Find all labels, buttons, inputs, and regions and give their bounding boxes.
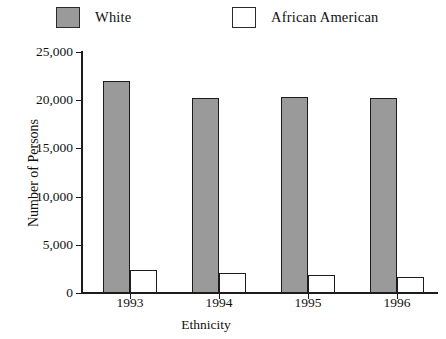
y-tick-mark bbox=[76, 197, 82, 198]
bar-1995-african-american bbox=[308, 275, 335, 293]
bar-chart: White African American Number of Persons… bbox=[0, 0, 446, 339]
bar-1996-african-american bbox=[397, 277, 424, 293]
y-tick-mark bbox=[76, 100, 82, 101]
x-tick-mark bbox=[397, 293, 398, 299]
legend-swatch-white-icon bbox=[56, 7, 80, 28]
bar-1996-white bbox=[370, 98, 397, 293]
y-tick-label: 25,000 bbox=[6, 44, 82, 60]
x-tick-mark bbox=[308, 293, 309, 299]
y-axis-title: Number of Persons bbox=[26, 103, 42, 243]
y-tick-label: 15,000 bbox=[6, 140, 82, 156]
y-tick-label: 20,000 bbox=[6, 92, 82, 108]
legend-label-african-american: African American bbox=[271, 7, 378, 28]
legend-item-african-american: African American bbox=[232, 7, 378, 28]
legend-swatch-african-american-icon bbox=[232, 7, 256, 28]
bar-1993-african-american bbox=[130, 270, 157, 293]
x-axis-title: Ethnicity bbox=[0, 317, 446, 333]
bar-1993-white bbox=[103, 81, 130, 293]
bar-group-1995 bbox=[281, 52, 335, 293]
y-tick-mark bbox=[76, 148, 82, 149]
y-tick-label: 5,000 bbox=[6, 237, 82, 253]
bar-1995-white bbox=[281, 97, 308, 293]
bar-group-1996 bbox=[370, 52, 424, 293]
y-tick-mark bbox=[76, 245, 82, 246]
x-tick-mark bbox=[130, 293, 131, 299]
y-tick-label: 0 bbox=[6, 285, 82, 301]
bar-group-1994 bbox=[192, 52, 246, 293]
chart-legend: White African American bbox=[0, 0, 446, 40]
bar-1994-african-american bbox=[219, 273, 246, 293]
x-tick-mark bbox=[219, 293, 220, 299]
plot-area: Number of Persons 05,00010,00015,00020,0… bbox=[82, 52, 438, 293]
y-tick-mark bbox=[76, 293, 82, 294]
bar-group-1993 bbox=[103, 52, 157, 293]
y-tick-mark bbox=[76, 52, 82, 53]
bar-1994-white bbox=[192, 98, 219, 293]
legend-label-white: White bbox=[95, 7, 131, 28]
y-tick-label: 10,000 bbox=[6, 189, 82, 205]
legend-item-white: White bbox=[56, 7, 131, 28]
